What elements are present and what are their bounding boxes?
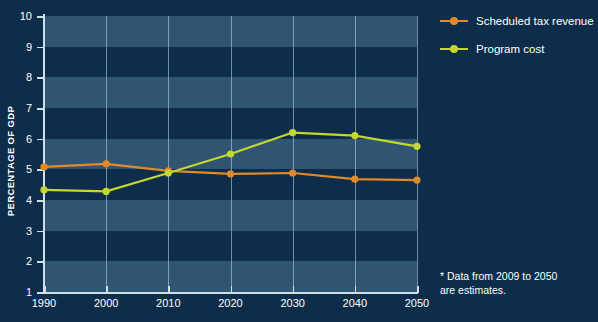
x-tick-label: 2000: [76, 297, 136, 309]
y-axis-line: [43, 14, 45, 294]
legend-label: Program cost: [476, 43, 544, 55]
x-tick: [231, 286, 233, 293]
legend-marker-icon: [440, 43, 468, 55]
y-tick: [37, 231, 44, 233]
x-tick-label: 2050: [387, 297, 447, 309]
footnote-line-2: are estimates.: [440, 283, 590, 297]
x-tick-label: 2040: [325, 297, 385, 309]
x-tick: [44, 286, 46, 293]
y-tick: [37, 169, 44, 171]
y-tick: [37, 200, 44, 202]
gridline: [231, 16, 232, 292]
y-tick-label: 10: [2, 10, 32, 22]
footnote: * Data from 2009 to 2050 are estimates.: [440, 269, 590, 297]
y-tick-label: 8: [2, 71, 32, 83]
legend: Scheduled tax revenue Program cost: [440, 10, 592, 66]
y-tick: [37, 261, 44, 263]
y-tick: [37, 139, 44, 141]
y-tick-label: 6: [2, 133, 32, 145]
x-tick: [168, 286, 170, 293]
x-tick-label: 2020: [201, 297, 261, 309]
legend-label: Scheduled tax revenue: [476, 15, 594, 27]
x-tick: [417, 286, 419, 293]
y-tick-label: 4: [2, 194, 32, 206]
legend-item-scheduled-tax-revenue[interactable]: Scheduled tax revenue: [440, 10, 592, 31]
x-tick: [293, 286, 295, 293]
y-tick: [37, 16, 44, 18]
x-tick-label: 2010: [138, 297, 198, 309]
gridline: [293, 16, 294, 292]
y-tick-label: 9: [2, 41, 32, 53]
legend-marker-icon: [440, 15, 468, 27]
gridline: [417, 16, 418, 292]
gridline: [168, 16, 169, 292]
y-tick-label: 7: [2, 102, 32, 114]
y-tick: [37, 77, 44, 79]
y-tick: [37, 292, 44, 294]
plot-area: [44, 16, 417, 292]
gridline: [355, 16, 356, 292]
y-tick: [37, 47, 44, 49]
x-tick-label: 1990: [14, 297, 74, 309]
chart-container: PERCENTAGE OF GDP 10987654321 1990200020…: [0, 0, 598, 322]
gridline: [106, 16, 107, 292]
y-tick-label: 3: [2, 225, 32, 237]
footnote-line-1: * Data from 2009 to 2050: [440, 269, 590, 283]
legend-item-program-cost[interactable]: Program cost: [440, 38, 592, 59]
y-tick: [37, 108, 44, 110]
x-tick: [106, 286, 108, 293]
x-tick: [355, 286, 357, 293]
x-tick-label: 2030: [263, 297, 323, 309]
y-tick-label: 5: [2, 163, 32, 175]
y-tick-label: 2: [2, 255, 32, 267]
